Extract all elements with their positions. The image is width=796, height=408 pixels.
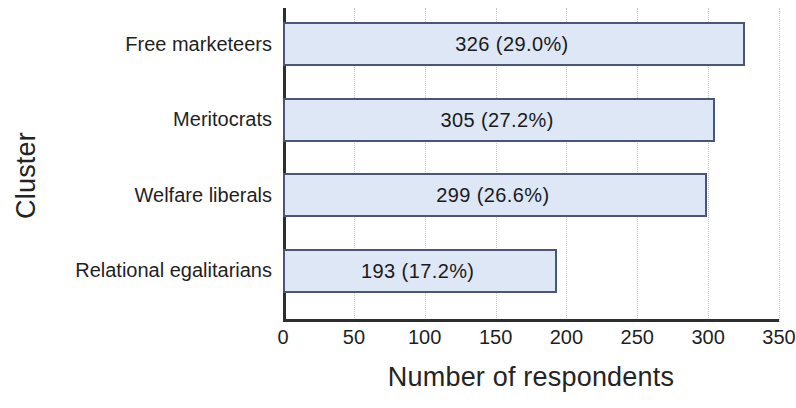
bar-chart: Cluster Free marketeers Meritocrats Welf…	[0, 0, 796, 408]
bar-relational-egalitarians: 193 (17.2%)	[283, 249, 557, 293]
x-tick-100: 100	[408, 326, 441, 349]
category-label-3: Relational egalitarians	[75, 259, 272, 281]
bar-value-label-0: 326 (29.0%)	[455, 33, 568, 56]
category-label-1: Meritocrats	[173, 108, 272, 130]
bar-value-label-2: 299 (26.6%)	[436, 184, 549, 207]
x-tick-150: 150	[479, 326, 512, 349]
y-axis-category-labels: Free marketeers Meritocrats Welfare libe…	[30, 0, 272, 322]
category-label-2: Welfare liberals	[135, 184, 272, 206]
x-axis-title: Number of respondents	[283, 362, 779, 393]
bar-value-label-3: 193 (17.2%)	[361, 260, 474, 283]
x-tick-0: 0	[277, 326, 288, 349]
x-tick-350: 350	[762, 326, 795, 349]
bar-welfare-liberals: 299 (26.6%)	[283, 173, 707, 217]
x-axis-tick-labels: 0 50 100 150 200 250 300 350	[283, 326, 779, 360]
x-tick-250: 250	[621, 326, 654, 349]
bar-meritocrats: 305 (27.2%)	[283, 98, 715, 142]
bar-value-label-1: 305 (27.2%)	[440, 109, 553, 132]
x-tick-200: 200	[550, 326, 583, 349]
gridline-350	[779, 8, 781, 322]
x-tick-300: 300	[691, 326, 724, 349]
category-label-0: Free marketeers	[125, 33, 272, 55]
bar-free-marketeers: 326 (29.0%)	[283, 22, 745, 66]
x-axis-line	[283, 319, 779, 322]
x-tick-50: 50	[343, 326, 365, 349]
plot-area: 326 (29.0%) 305 (27.2%) 299 (26.6%) 193 …	[283, 8, 779, 322]
